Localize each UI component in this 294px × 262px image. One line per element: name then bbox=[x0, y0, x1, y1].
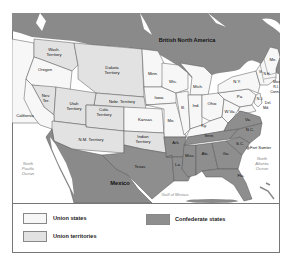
ny-label: N.Y. bbox=[233, 79, 241, 84]
ala-label: Ala. bbox=[201, 151, 208, 156]
va-label: Va. bbox=[245, 117, 251, 122]
nebr-label: Nebr. Territory bbox=[109, 99, 136, 104]
ky-label: Ky. bbox=[201, 123, 207, 128]
pa-label: Pa. bbox=[237, 94, 243, 99]
nm-label: N.M. Territory bbox=[78, 137, 104, 142]
nc-label: N.C. bbox=[246, 127, 254, 132]
indian-label-2: Territory bbox=[135, 139, 151, 144]
mich-label: Mich. bbox=[193, 84, 203, 89]
union-states-swatch bbox=[23, 213, 47, 224]
oregon-label: Oregon bbox=[38, 67, 53, 72]
sc-label: S.C. bbox=[236, 141, 244, 146]
ga-label: Ga. bbox=[223, 151, 230, 156]
fort-sumter-marker bbox=[247, 147, 249, 149]
texas-label: Texas bbox=[135, 164, 146, 169]
nj-label: N.J. bbox=[257, 97, 263, 101]
mississippi-state bbox=[182, 145, 196, 177]
fla-label: Fla. bbox=[238, 173, 245, 178]
ohio-state bbox=[202, 93, 224, 121]
conn-label: Conn. bbox=[270, 90, 280, 94]
british-north-america-label: British North America bbox=[159, 37, 217, 43]
utah-label-2: Territory bbox=[66, 106, 82, 111]
wva-label: W.Va. bbox=[225, 109, 236, 114]
mexico-label: Mexico bbox=[110, 180, 130, 186]
wis-label: Wis. bbox=[169, 79, 177, 84]
colo-label-2: Territory bbox=[96, 112, 112, 117]
civil-war-map: British North America Mexico Wash. Terri… bbox=[12, 13, 280, 203]
confederate-states-swatch bbox=[146, 214, 170, 225]
ri-label: R.I. bbox=[273, 85, 279, 89]
mass-label: Mass. bbox=[273, 80, 280, 84]
miss-label: Miss. bbox=[185, 153, 195, 158]
ohio-label: Ohio bbox=[208, 101, 218, 106]
minn-label: Minn. bbox=[148, 71, 158, 76]
vt-label: Vt. bbox=[259, 70, 263, 74]
florida-state bbox=[202, 169, 252, 201]
md-label: Md. bbox=[263, 106, 269, 110]
fort-sumter-label: Fort Sumter bbox=[250, 145, 272, 150]
iowa-label: Iowa bbox=[155, 95, 165, 100]
union-territories-legend-label: Union territories bbox=[53, 233, 97, 239]
north-pacific-label-3: Ocean bbox=[22, 171, 35, 176]
union-territories-swatch bbox=[23, 231, 47, 242]
nev-label-2: Ter. bbox=[43, 98, 50, 103]
ind-label: Ind. bbox=[193, 103, 200, 108]
me-label: Me. bbox=[270, 57, 277, 62]
la-label: La. bbox=[175, 162, 181, 167]
union-states-legend-label: Union states bbox=[53, 215, 87, 221]
ill-label: Ill. bbox=[181, 105, 185, 110]
gulf-of-mexico-label: Gulf of Mexico bbox=[162, 192, 189, 197]
north-atlantic-label-3: Ocean bbox=[256, 166, 269, 171]
del-label: Del. bbox=[265, 101, 271, 105]
mo-label: Mo. bbox=[168, 118, 175, 123]
california-label: California bbox=[16, 113, 34, 118]
map-legend: Union states Union territories Confedera… bbox=[12, 203, 280, 253]
ark-label: Ark. bbox=[172, 140, 179, 145]
kansas-label: Kansas bbox=[138, 117, 152, 122]
confederate-states-legend-label: Confederate states bbox=[175, 216, 225, 222]
nh-label: N.H. bbox=[264, 72, 271, 76]
dakota-label-2: Territory bbox=[104, 70, 120, 75]
wash-territory-label-2: Territory bbox=[46, 52, 62, 57]
indiana-state bbox=[188, 95, 202, 129]
tenn-label: Tenn. bbox=[204, 133, 214, 138]
